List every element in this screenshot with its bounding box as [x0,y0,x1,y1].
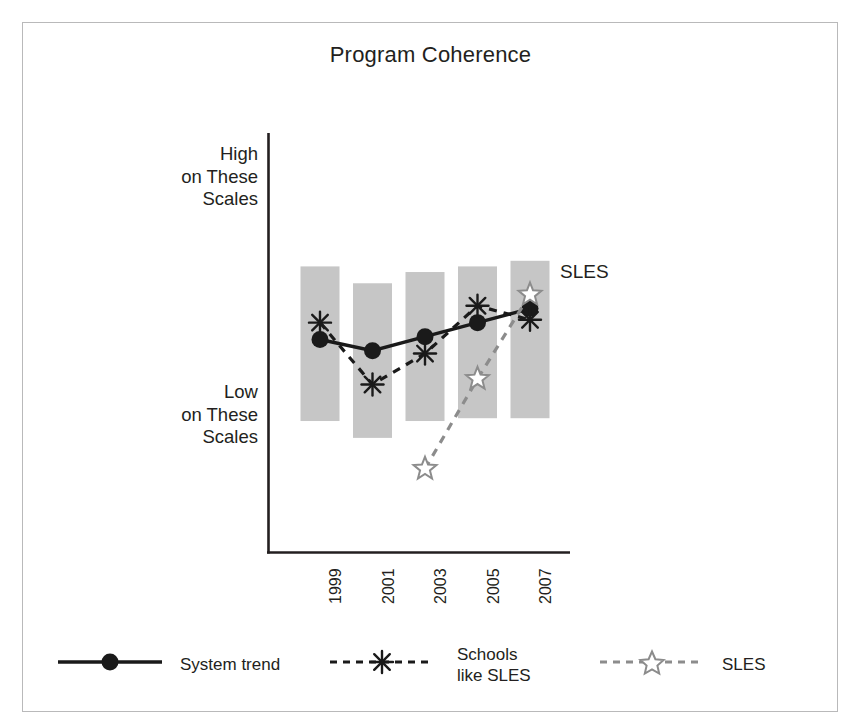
x-tick-2005: 2005 [485,568,503,604]
x-tick-2001: 2001 [380,568,398,604]
chart-legend: System trend Schools like SLES [22,636,838,698]
plot-area [0,0,861,724]
marker-2007 [519,309,541,331]
marker-2001 [362,373,384,395]
legend-item-schools-like-sles[interactable]: Schools like SLES [322,636,582,698]
legend-item-sles[interactable]: SLES [592,636,822,698]
marker-2001 [364,342,381,359]
marker-2005 [467,295,489,317]
marker-2003 [414,343,436,365]
legend-item-system-trend[interactable]: System trend [50,636,290,698]
x-tick-1999: 1999 [327,568,345,604]
legend-label-system-trend: System trend [180,654,280,675]
legend-label-schools-like-sles: Schools like SLES [457,644,531,687]
x-tick-2003: 2003 [432,568,450,604]
legend-swatch-sles [592,636,722,698]
legend-swatch-system-trend [50,636,180,698]
range-bar-2001 [353,283,392,438]
figure-root: Program Coherence High on These Scales L… [0,0,861,724]
range-bar-2005 [458,266,497,418]
legend-label-sles: SLES [722,654,765,675]
marker-1999 [309,312,331,334]
marker-2003 [414,457,437,479]
legend-swatch-schools-like-sles [322,636,452,698]
x-tick-2007: 2007 [537,568,555,604]
sles-annotation-label: SLES [560,261,609,283]
